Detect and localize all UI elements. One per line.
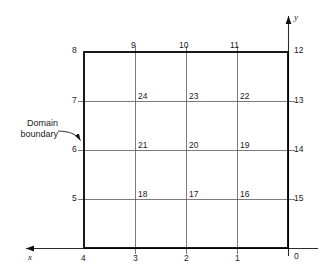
domain-boundary-annotation-line2: boundary	[0, 129, 58, 140]
node-label-top-1: 9	[131, 41, 136, 50]
domain-boundary-square	[84, 52, 288, 248]
domain-boundary-annotation-line1: Domain	[0, 118, 58, 129]
node-label-top-left-corner: 8	[72, 46, 77, 55]
node-label-interior-23: 23	[189, 92, 199, 101]
node-label-left-2: 6	[72, 145, 77, 154]
node-label-interior-17: 17	[189, 190, 199, 199]
node-label-interior-22: 22	[240, 92, 250, 101]
domain-boundary-annotation: Domain boundary	[0, 118, 58, 140]
node-label-interior-21: 21	[138, 141, 148, 150]
node-label-interior-20: 20	[189, 141, 199, 150]
node-label-bottom-1: 3	[133, 254, 138, 263]
node-label-interior-18: 18	[138, 190, 148, 199]
y-axis-label: y	[294, 13, 298, 22]
mesh-grid-lines	[84, 52, 288, 248]
node-label-bottom-left-corner: 4	[81, 254, 86, 263]
node-label-right-2: 14	[294, 145, 304, 154]
node-label-top-right-corner: 12	[294, 46, 304, 55]
node-label-interior-24: 24	[138, 92, 148, 101]
x-axis-label: x	[28, 253, 32, 262]
node-label-bottom-2: 2	[184, 254, 189, 263]
node-label-left-3: 5	[72, 194, 77, 203]
node-label-top-2: 10	[179, 41, 189, 50]
mesh-domain-figure: x y Domain boundary 8 9 10 11 12 13 14 1…	[0, 0, 322, 274]
node-label-origin: 0	[294, 252, 299, 261]
node-label-left-1: 7	[72, 96, 77, 105]
node-label-bottom-3: 1	[235, 254, 240, 263]
node-label-interior-16: 16	[240, 190, 250, 199]
node-label-top-3: 11	[230, 41, 239, 50]
node-label-right-1: 13	[294, 96, 304, 105]
node-label-right-3: 15	[294, 194, 304, 203]
domain-boundary-leader-line	[58, 131, 81, 141]
node-label-interior-19: 19	[240, 141, 250, 150]
